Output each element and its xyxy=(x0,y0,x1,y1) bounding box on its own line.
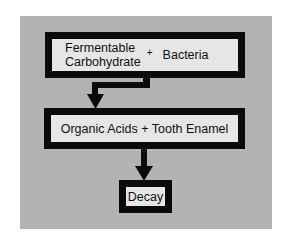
carbohydrate-label: Fermentable Carbohydrate xyxy=(65,41,141,69)
carbohydrate-label-line1: Fermentable xyxy=(65,41,141,55)
reaction-label: Organic Acids + Tooth Enamel xyxy=(61,122,229,136)
arrow-down-icon xyxy=(87,94,104,109)
carbohydrate-label-line2: Carbohydrate xyxy=(65,55,141,69)
inputs-box: Fermentable Carbohydrate + Bacteria xyxy=(45,32,245,78)
arrow-down-icon xyxy=(135,166,153,181)
decay-label: Decay xyxy=(128,190,163,204)
decay-box: Decay xyxy=(119,180,172,213)
bacteria-label: Bacteria xyxy=(163,48,209,62)
reaction-box: Organic Acids + Tooth Enamel xyxy=(44,108,245,149)
connector-segment-horizontal xyxy=(92,82,150,88)
connector-shaft xyxy=(141,148,147,167)
plus-operator: + xyxy=(147,47,153,58)
